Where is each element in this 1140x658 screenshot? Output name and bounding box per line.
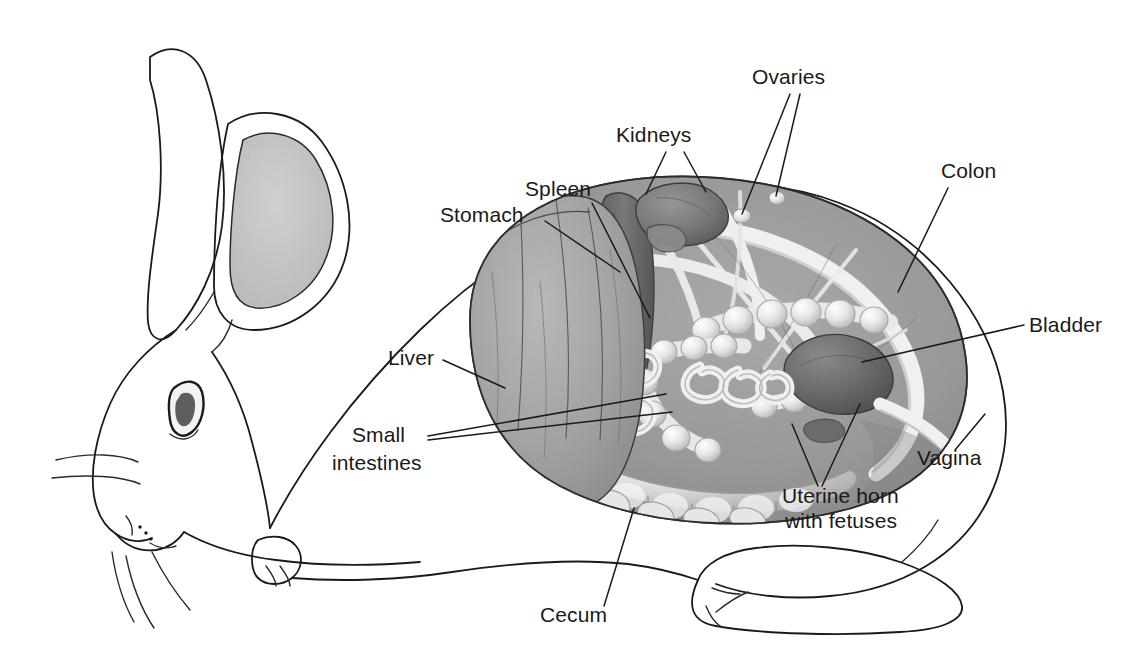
nose-outline — [126, 516, 132, 535]
label-bladder: Bladder — [1029, 313, 1102, 336]
label-vagina: Vagina — [917, 446, 982, 469]
label-kidneys: Kidneys — [616, 123, 691, 146]
leader-ovaries-2 — [776, 94, 800, 196]
head-outline — [93, 330, 176, 541]
label-spleen: Spleen — [525, 177, 591, 200]
label-small-intestines-line1: Small — [352, 423, 405, 446]
whiskers — [52, 455, 190, 628]
rump-outline — [716, 584, 830, 598]
rabbit-anatomy-figure: Ovaries Kidneys Spleen Colon Stomach Bla… — [0, 0, 1140, 658]
label-colon: Colon — [941, 159, 996, 182]
label-small-intestines-line2: intestines — [332, 451, 422, 474]
muzzle-outline — [116, 532, 184, 550]
head-top-to-neck — [212, 352, 270, 528]
near-ear-inner-fill — [230, 133, 333, 308]
anatomy-diagram: Ovaries Kidneys Spleen Colon Stomach Bla… — [0, 0, 1140, 658]
label-liver: Liver — [388, 346, 434, 369]
eye — [169, 382, 204, 439]
label-stomach: Stomach — [440, 203, 524, 226]
label-uterine-horn-line2: with fetuses — [784, 509, 897, 532]
chest-foreleg-outline — [184, 532, 420, 565]
nostril-dot-1 — [138, 525, 141, 528]
hind-foot-heel — [706, 606, 720, 626]
hind-foot-toe-2 — [716, 592, 748, 612]
leader-cecum — [604, 508, 634, 606]
rear-flank-line — [902, 520, 938, 562]
label-ovaries: Ovaries — [752, 65, 825, 88]
label-cecum: Cecum — [540, 603, 607, 626]
nostril-dot-2 — [144, 531, 147, 534]
ear-base-line-2 — [212, 320, 232, 352]
label-uterine-horn-line1: Uterine horn — [782, 484, 899, 507]
nostril-dot-3 — [149, 537, 152, 540]
uterine-body — [804, 419, 845, 442]
